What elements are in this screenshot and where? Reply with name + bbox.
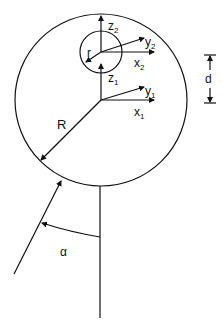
inclined-line [14,181,61,274]
R-radius [41,100,101,160]
geometry-diagram: z2 y2 x2 r z1 y1 x1 R d α [0,0,224,328]
label-y2: y2 [145,35,156,51]
alpha-arc [42,223,100,237]
label-y1: y1 [145,84,156,100]
label-x2: x2 [134,56,145,72]
label-z1: z1 [108,71,119,87]
label-r: r [87,46,91,60]
label-z2: z2 [108,19,119,35]
y1-axis [101,87,144,100]
label-alpha: α [60,245,67,259]
y2-axis [101,38,144,52]
label-R: R [57,117,66,132]
label-d: d [205,72,212,86]
label-x1: x1 [134,105,145,121]
